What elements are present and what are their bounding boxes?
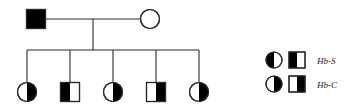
individual-legend-row-hbs-circle bbox=[266, 52, 282, 68]
legend-row-hbs: Hb-S bbox=[266, 52, 336, 68]
individual-legend-row-hbs-square bbox=[289, 52, 305, 68]
individual-father bbox=[27, 10, 46, 29]
individual-legend-row-hbc-circle bbox=[266, 76, 282, 92]
fill-full bbox=[27, 10, 46, 29]
pedigree-chart: Hb-SHb-C bbox=[0, 0, 350, 106]
legend-row-hbc: Hb-C bbox=[266, 76, 338, 92]
individual-child-3 bbox=[104, 83, 123, 102]
individual-legend-row-hbc-square bbox=[289, 76, 305, 92]
pedigree-canvas: Hb-SHb-C bbox=[0, 0, 350, 106]
legend-row-hbs-label: Hb-S bbox=[316, 56, 336, 66]
legend-row-hbc-label: Hb-C bbox=[316, 80, 338, 90]
generation-2 bbox=[18, 83, 209, 102]
individual-child-1 bbox=[18, 83, 37, 102]
individual-mother bbox=[141, 10, 160, 29]
individual-child-4 bbox=[147, 83, 166, 102]
individual-child-5 bbox=[190, 83, 209, 102]
connector-lines bbox=[27, 19, 199, 83]
legend: Hb-SHb-C bbox=[266, 52, 338, 92]
individual-child-2 bbox=[61, 83, 80, 102]
